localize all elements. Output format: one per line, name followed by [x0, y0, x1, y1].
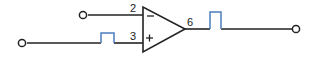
inverting-input-terminal [79, 11, 86, 18]
noninverting-input-branch: 3 [18, 30, 143, 47]
output-wire-hop-icon [210, 12, 221, 29]
pin-label-6: 6 [187, 16, 193, 28]
output-branch: 6 [185, 12, 300, 33]
op-amp-triangle [143, 7, 185, 52]
output-terminal [292, 25, 299, 32]
inverting-input-branch: 2 [79, 2, 143, 19]
input-wire-hop-icon [101, 33, 114, 43]
pin-label-3: 3 [130, 30, 136, 42]
op-amp-schematic-diagram: 2 3 6 [0, 0, 317, 60]
schematic-canvas: 2 3 6 [0, 0, 317, 60]
op-amp-symbol [143, 7, 185, 52]
pin-label-2: 2 [130, 2, 136, 14]
noninverting-input-terminal [18, 39, 25, 46]
